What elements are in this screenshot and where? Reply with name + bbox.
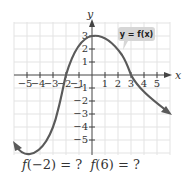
svg-text:1: 1 xyxy=(102,78,108,89)
svg-text:−5: −5 xyxy=(73,134,88,145)
svg-text:4: 4 xyxy=(141,78,147,89)
svg-text:−3: −3 xyxy=(73,108,88,119)
x-axis-arrow-icon xyxy=(164,72,172,78)
svg-text:−4: −4 xyxy=(73,121,88,132)
svg-text:−1: −1 xyxy=(73,82,88,93)
svg-text:1: 1 xyxy=(82,56,88,67)
x-axis-label: x xyxy=(175,69,182,82)
svg-text:2: 2 xyxy=(115,78,121,89)
function-callout: y = f(x) xyxy=(118,27,155,50)
svg-text:−2: −2 xyxy=(73,95,88,106)
question-arg-1: (−2) = ? xyxy=(27,157,82,172)
function-graph: y x −5 −4 −3 −2 −1 1 2 3 4 5 3 2 1 −1 −2… xyxy=(0,0,185,182)
callout-label: y = f(x) xyxy=(120,30,153,39)
question-text: f(−2) = ? f(6) = ? xyxy=(22,157,140,172)
y-tick-labels: 3 2 1 −1 −2 −3 −4 −5 xyxy=(73,30,88,145)
svg-text:2: 2 xyxy=(82,43,88,54)
question-arg-2: (6) = ? xyxy=(95,157,140,172)
y-axis-label: y xyxy=(86,8,94,21)
svg-text:5: 5 xyxy=(154,78,160,89)
